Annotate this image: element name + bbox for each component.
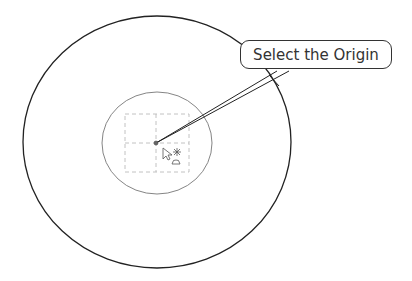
callout-select-origin: Select the Origin xyxy=(240,40,392,69)
cursor-origin-icon xyxy=(163,148,181,164)
callout-leader xyxy=(156,71,289,143)
callout-text: Select the Origin xyxy=(253,46,379,64)
origin-point[interactable] xyxy=(154,141,158,145)
